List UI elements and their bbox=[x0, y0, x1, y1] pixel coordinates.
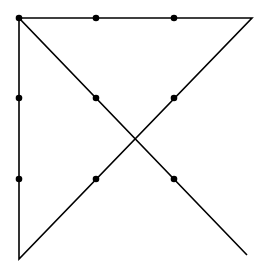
solution-line bbox=[19, 18, 252, 259]
nine-dots-diagram bbox=[0, 0, 267, 275]
dot bbox=[16, 15, 23, 22]
dot bbox=[16, 95, 23, 102]
dot bbox=[171, 95, 178, 102]
dot bbox=[93, 95, 100, 102]
dot bbox=[93, 15, 100, 22]
dot bbox=[171, 15, 178, 22]
dot bbox=[16, 176, 23, 183]
solution-path bbox=[19, 18, 252, 259]
dot bbox=[93, 176, 100, 183]
dot bbox=[171, 176, 178, 183]
